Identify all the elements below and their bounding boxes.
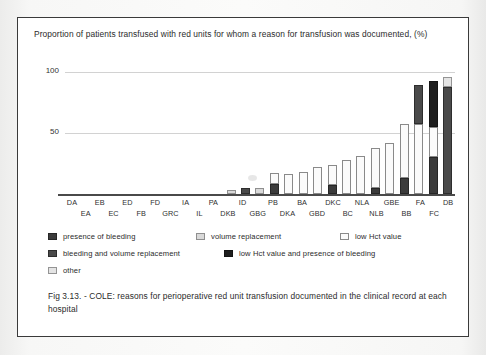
legend-item-bleed[interactable]: presence of bleeding [48,232,136,241]
x-label-NLB: NLB [369,209,384,218]
bar-slot-FC [426,72,440,194]
figure-frame: Proportion of patients transfused with r… [17,17,469,337]
legend-item-bleedvol[interactable]: bleeding and volume replacement [48,249,180,258]
x-label-FA: FA [413,198,427,207]
legend-item-hct[interactable]: low Hct value [340,232,401,241]
y-tick-label-50: 50 [50,127,59,136]
bar-BA[interactable] [299,172,308,194]
x-label-EA: EA [79,209,93,218]
x-label-BA: BA [295,198,309,207]
bar-segment-NLB-hct [371,148,380,188]
bar-slot-IA [181,72,195,194]
bar-segment-DB-other [443,77,452,87]
bar-slot-NLB [368,72,382,194]
bar-segment-FA-hct [414,124,423,194]
x-axis-line [58,194,455,196]
bar-segment-FC-hctbleed [429,81,438,127]
x-label-FD: FD [148,198,162,207]
bar-DB[interactable] [443,77,452,194]
legend-label-vol: volume replacement [211,232,281,241]
x-label-BC: BC [341,209,355,218]
bar-slot-GBD [310,72,324,194]
x-label-IA: IA [179,198,193,207]
bar-slot-ED [123,72,137,194]
bar-BB[interactable] [400,124,409,194]
bar-slot-IL [195,72,209,194]
bar-slot-FD [152,72,166,194]
bar-slot-FB [137,72,151,194]
bar-GBD[interactable] [313,167,322,194]
bar-FA[interactable] [414,85,423,194]
x-label-ID: ID [236,198,250,207]
x-axis-labels: DAEAEBECEDFBFDGRCIAILPADKBIDGBGPBDKABAGB… [65,198,455,226]
legend-item-vol[interactable]: volume replacement [196,232,281,241]
legend-label-other: other [63,266,81,275]
bar-DKC[interactable] [328,165,337,194]
x-label-GBG: GBG [249,209,266,218]
x-label-DKB: DKB [220,209,235,218]
bar-segment-DKA-hct [284,174,293,194]
bar-slot-NLA [354,72,368,194]
x-label-BB: BB [399,209,413,218]
bar-slot-GBE [383,72,397,194]
y-tick-label-100: 100 [46,66,59,75]
bar-segment-PB-hct [270,173,279,184]
bar-slot-DKA [282,72,296,194]
bar-slot-BA [296,72,310,194]
legend-label-bleedvol: bleeding and volume replacement [63,249,180,258]
bar-slot-EA [79,72,93,194]
bar-slot-PA [209,72,223,194]
x-label-IL: IL [193,209,207,218]
x-label-GBD: GBD [309,209,325,218]
legend-swatch-hct-icon [340,233,349,240]
legend-swatch-hctbleed-icon [224,250,233,257]
bar-slot-EB [94,72,108,194]
x-label-DA: DA [65,198,79,207]
x-label-ED: ED [121,198,135,207]
x-label-NLA: NLA [355,198,370,207]
legend-item-other[interactable]: other [48,266,81,275]
bar-slot-GRC [166,72,180,194]
bar-NLB[interactable] [371,148,380,194]
legend-row-1: presence of bleedingvolume replacementlo… [48,232,460,249]
bar-GBE[interactable] [385,143,394,194]
bar-segment-GBD-hct [313,167,322,194]
legend-swatch-bleed-icon [48,233,57,240]
legend-item-hctbleed[interactable]: low Hct value and presence of bleeding [224,249,375,258]
bar-segment-FA-bleedvol [414,85,423,124]
bar-DKA[interactable] [284,174,293,194]
bar-series-container [65,72,455,194]
legend-row-2: bleeding and volume replacementlow Hct v… [48,249,460,266]
x-label-FC: FC [427,209,441,218]
x-label-EB: EB [93,198,107,207]
x-label-EC: EC [107,209,121,218]
bar-segment-DKC-bleed [328,185,337,194]
bar-slot-ID [238,72,252,194]
bar-segment-DB-bleedvol [443,87,452,194]
bar-segment-BA-hct [299,172,308,194]
bar-segment-DKC-hct [328,165,337,186]
bar-slot-GBG [253,72,267,194]
x-label-PA: PA [206,198,220,207]
x-label-DKA: DKA [280,209,295,218]
bar-segment-NLA-hct [356,156,365,194]
bar-NLA[interactable] [356,156,365,194]
bar-segment-FC-bleed [429,157,438,194]
bar-segment-FC-hct [429,127,438,158]
figure-page: Proportion of patients transfused with r… [0,0,486,355]
bar-FC[interactable] [429,81,438,194]
bar-segment-PB-bleed [270,184,279,194]
bar-PB[interactable] [270,173,279,194]
bar-segment-BB-hct [400,124,409,178]
chart-legend: presence of bleedingvolume replacementlo… [48,232,460,283]
bar-slot-DKC [325,72,339,194]
legend-label-hctbleed: low Hct value and presence of bleeding [239,249,375,258]
bar-slot-EC [108,72,122,194]
legend-swatch-other-icon [48,267,57,274]
bar-BC[interactable] [342,160,351,194]
bar-slot-FA [412,72,426,194]
x-label-FB: FB [134,209,148,218]
bar-segment-BC-hct [342,160,351,194]
legend-swatch-vol-icon [196,233,205,240]
x-label-GBE: GBE [384,198,400,207]
